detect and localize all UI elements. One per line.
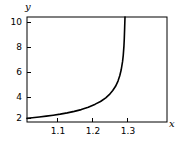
y-axis-label: y — [25, 2, 31, 12]
y-tick-label-6: 6 — [2, 68, 22, 77]
y-tick-label-10: 10 — [2, 18, 22, 27]
data-curve — [27, 17, 125, 118]
x-tick-label-1-3: 1.3 — [113, 127, 143, 136]
y-tick-label-8: 8 — [2, 43, 22, 52]
x-tick-label-1-2: 1.2 — [78, 127, 108, 136]
y-tick-label-2: 2 — [2, 114, 22, 123]
y-axis-ticks — [27, 23, 31, 119]
y-tick-label-4: 4 — [2, 93, 22, 102]
plot-canvas — [0, 0, 180, 143]
x-tick-label-1-1: 1.1 — [43, 127, 73, 136]
plot-figure: y x 10 8 6 4 2 1.1 1.2 1.3 — [0, 0, 180, 143]
plot-frame — [27, 17, 167, 122]
x-axis-label: x — [169, 119, 175, 129]
x-axis-ticks — [58, 118, 128, 122]
